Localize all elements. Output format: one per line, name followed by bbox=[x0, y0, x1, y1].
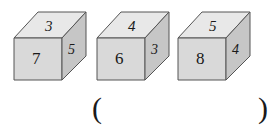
answer-blank[interactable] bbox=[106, 97, 254, 123]
close-paren: ) bbox=[258, 93, 268, 123]
cube-3: 5 8 4 bbox=[0, 0, 280, 95]
answer-row: ( ) bbox=[0, 91, 280, 129]
cube-3-top-digit: 5 bbox=[209, 18, 217, 34]
open-paren: ( bbox=[92, 93, 102, 123]
cube-3-front-digit: 8 bbox=[196, 49, 205, 68]
cube-3-side-digit: 4 bbox=[232, 42, 239, 57]
cube-figure: 3 7 5 4 6 3 5 8 4 ( ) bbox=[0, 0, 280, 133]
